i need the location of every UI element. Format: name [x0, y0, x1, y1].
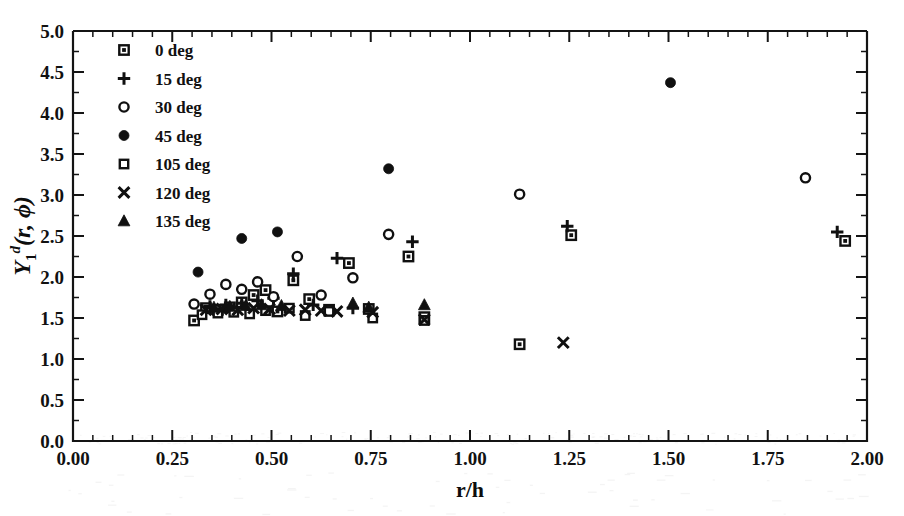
marker-circle-filled: [665, 78, 675, 88]
x-axis-title: r/h: [456, 477, 484, 502]
marker-circle-open: [515, 190, 524, 199]
marker-circle-open: [237, 285, 246, 294]
marker-circle-open: [189, 299, 198, 308]
marker-square-dot: [840, 236, 849, 245]
marker-circle-filled: [119, 131, 129, 141]
marker-square-dot: [515, 340, 524, 349]
marker-circle-open: [119, 102, 128, 111]
y-tick-label: 1.5: [40, 308, 64, 329]
marker-circle-open: [253, 277, 262, 286]
x-tick-label: 1.00: [453, 448, 486, 469]
y-axis-title: Y1d(r, ϕ): [7, 196, 39, 276]
x-tick-label: 1.75: [751, 448, 784, 469]
scatter-plot-figure: 0.000.250.500.751.001.251.501.752.00 0.0…: [0, 0, 904, 516]
marker-circle-open: [221, 280, 230, 289]
marker-square-open: [120, 160, 128, 168]
y-tick-label: 5.0: [40, 21, 64, 42]
x-tick-label: 0.75: [354, 448, 387, 469]
x-tick-label: 2.00: [850, 448, 883, 469]
y-tick-label: 3.0: [40, 185, 64, 206]
legend-item-label: 15 deg: [155, 70, 202, 89]
marker-circle-open: [801, 173, 810, 182]
y-tick-label: 1.0: [40, 349, 64, 370]
marker-circle-open: [348, 273, 357, 282]
legend-item-label: 45 deg: [155, 127, 202, 146]
y-tick-label: 4.0: [40, 103, 64, 124]
y-tick-label: 4.5: [40, 62, 64, 83]
y-tick-label: 3.5: [40, 144, 64, 165]
y-tick-label: 0.0: [40, 431, 64, 452]
y-tick-label: 0.5: [40, 390, 64, 411]
x-tick-label: 1.25: [553, 448, 586, 469]
marker-circle-filled: [384, 164, 394, 174]
svg-text:Y1d(r, ϕ): Y1d(r, ϕ): [7, 196, 39, 276]
marker-circle-open: [205, 290, 214, 299]
legend-item-label: 30 deg: [155, 98, 202, 117]
y-tick-label: 2.5: [40, 226, 64, 247]
chart-canvas: 0.000.250.500.751.001.251.501.752.00 0.0…: [0, 0, 904, 516]
marker-circle-open: [293, 252, 302, 261]
y-tick-label: 2.0: [40, 267, 64, 288]
x-tick-label: 0.50: [255, 448, 288, 469]
x-tick-label: 1.50: [652, 448, 685, 469]
x-axis-tick-labels: 0.000.250.500.751.001.251.501.752.00: [56, 448, 883, 469]
legend-item-label: 105 deg: [155, 155, 211, 174]
marker-circle-open: [384, 230, 393, 239]
legend-item-label: 135 deg: [155, 212, 211, 231]
legend-item-label: 0 deg: [155, 41, 194, 60]
legend-item-label: 120 deg: [155, 184, 211, 203]
marker-circle-filled: [272, 227, 282, 237]
marker-square-dot: [119, 45, 128, 54]
marker-square-dot: [344, 258, 353, 267]
marker-circle-open: [317, 290, 326, 299]
marker-circle-filled: [237, 233, 247, 243]
marker-square-dot: [404, 252, 413, 261]
x-tick-label: 0.25: [156, 448, 189, 469]
marker-circle-open: [269, 292, 278, 301]
marker-circle-filled: [193, 267, 203, 277]
